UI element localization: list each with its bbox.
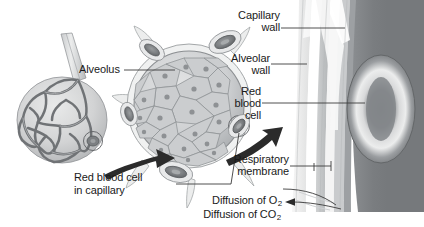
label-red-blood-cell-in-capillary-line1: Red blood cell bbox=[74, 171, 142, 183]
label-diffusion-of-co2-text: Diffusion of CO bbox=[203, 208, 276, 220]
label-red-blood-cell-line2: blood bbox=[182, 97, 261, 109]
magnified-membrane-group bbox=[292, 0, 424, 212]
label-alveolar-wall-line2: wall bbox=[191, 64, 270, 76]
label-red-blood-cell-in-capillary-line2: in capillary bbox=[74, 184, 125, 196]
label-diffusion-of-co2-subscript: 2 bbox=[276, 213, 281, 222]
label-respiratory-membrane-line1: Respiratory bbox=[205, 153, 289, 165]
label-alveolus: Alveolus bbox=[79, 63, 120, 75]
alveolar-sac-group bbox=[17, 33, 107, 163]
label-alveolar-wall-line1: Alveolar bbox=[191, 52, 270, 64]
label-capillary-wall-line2: wall bbox=[201, 21, 280, 33]
label-respiratory-membrane-line2: membrane bbox=[205, 165, 289, 177]
label-red-blood-cell-line3: cell bbox=[182, 109, 261, 121]
label-red-blood-cell-line1: Red bbox=[182, 85, 261, 97]
diffusion-co2-arrowhead bbox=[285, 198, 295, 206]
alveolus-diagram: Alveolus Red blood cell in capillary Cap… bbox=[0, 0, 424, 227]
label-diffusion-of-co2: Diffusion of CO2 bbox=[170, 196, 281, 227]
magnified-red-blood-cell bbox=[347, 55, 415, 163]
label-capillary-wall-line1: Capillary bbox=[201, 9, 280, 21]
